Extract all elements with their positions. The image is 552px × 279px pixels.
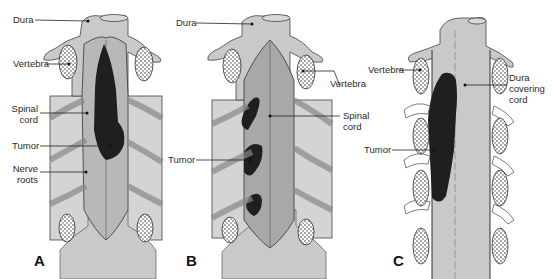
panel-a-illustration — [35, 15, 162, 279]
label-c-tumor: Tumor — [364, 144, 391, 155]
label-a-tumor: Tumor — [12, 140, 39, 151]
label-b-vertebra: Vertebra — [330, 78, 366, 89]
spinal-tumor-figure — [0, 0, 552, 279]
panel-letter-a: A — [34, 252, 45, 269]
label-a-vertebra: Vertebra — [13, 58, 49, 69]
label-b-dura: Dura — [176, 17, 197, 28]
label-a-spinal-cord: Spinal cord — [6, 103, 38, 125]
panel-letter-b: B — [186, 252, 197, 269]
label-c-dura-covering-cord: Dura covering cord — [509, 72, 545, 105]
panel-c-illustration — [392, 18, 514, 279]
panel-b-illustration — [196, 15, 340, 279]
label-a-dura: Dura — [13, 14, 34, 25]
label-a-nerve-roots: Nerve roots — [6, 163, 38, 185]
label-b-spinal-cord: Spinal cord — [343, 110, 369, 132]
label-b-tumor: Tumor — [168, 154, 195, 165]
label-c-vertebra: Vertebra — [368, 64, 404, 75]
panel-letter-c: C — [393, 252, 404, 269]
